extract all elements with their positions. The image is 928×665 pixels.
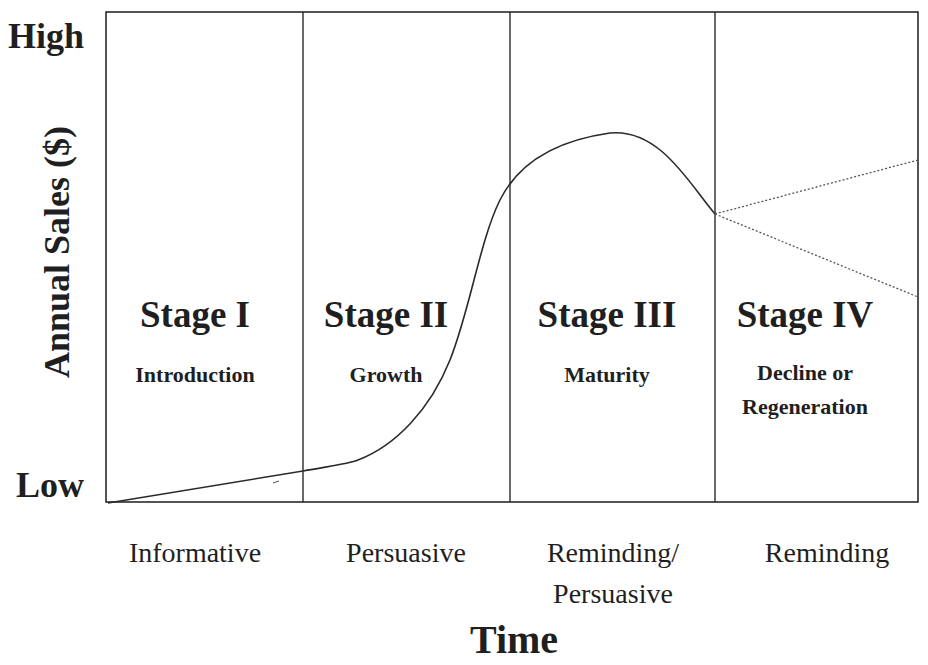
stage-2-message: Persuasive	[346, 537, 466, 570]
stray-mark	[273, 481, 279, 483]
stage-2-label: Growth	[350, 360, 423, 389]
x-axis-title: Time	[470, 620, 558, 660]
stage-4-label-line2: Regeneration	[742, 392, 868, 421]
stage-4-message: Reminding	[765, 537, 889, 570]
stage-4-label-line1: Decline or	[757, 358, 853, 387]
stage-4-title: Stage IV	[737, 296, 874, 333]
stage-3-message-line2: Persuasive	[553, 578, 673, 611]
regeneration-line	[715, 160, 918, 214]
plot-frame	[106, 12, 918, 502]
stage-3-label: Maturity	[564, 360, 650, 389]
stage-1-message: Informative	[129, 537, 261, 570]
stage-1-label: Introduction	[135, 360, 254, 389]
stage-3-title: Stage III	[538, 296, 677, 333]
stage-2-title: Stage II	[324, 296, 448, 333]
decline-line	[715, 214, 918, 297]
stage-1-title: Stage I	[140, 296, 250, 333]
stage-3-message-line1: Reminding/	[547, 537, 679, 570]
